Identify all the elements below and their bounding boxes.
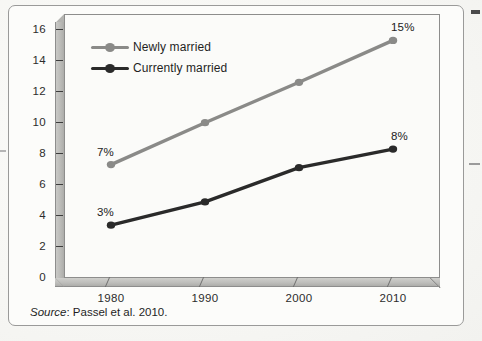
y-tick-mark bbox=[56, 122, 63, 124]
data-label: 7% bbox=[97, 146, 114, 158]
legend-item-newly-married: Newly married bbox=[91, 38, 227, 56]
y-tick-mark bbox=[56, 246, 63, 248]
legend-label: Currently married bbox=[133, 61, 227, 75]
y-tick-mark bbox=[56, 29, 63, 31]
crop-mark-middle-right bbox=[469, 163, 480, 165]
data-point-marker bbox=[107, 161, 115, 168]
data-point-marker bbox=[201, 198, 209, 205]
data-point-marker bbox=[107, 222, 115, 229]
data-label: 8% bbox=[391, 130, 408, 142]
crop-mark-top-right bbox=[471, 10, 480, 14]
y-tick-label: 10 bbox=[33, 117, 46, 129]
source-label: Source bbox=[30, 306, 66, 318]
plot-floor-right-bevel bbox=[430, 278, 441, 288]
data-label: 3% bbox=[97, 206, 114, 218]
y-tick-label: 4 bbox=[39, 210, 46, 222]
y-tick-label: 16 bbox=[33, 24, 46, 36]
crop-mark-middle-left bbox=[0, 150, 6, 152]
y-tick-label: 2 bbox=[39, 241, 46, 253]
y-tick-label: 0 bbox=[39, 272, 46, 284]
y-tick-label: 12 bbox=[33, 86, 46, 98]
y-tick-mark bbox=[56, 184, 63, 186]
series-line-currently-married bbox=[111, 149, 393, 225]
plot-floor-left-bevel bbox=[55, 278, 65, 287]
legend-label: Newly married bbox=[133, 40, 211, 54]
legend-dot-icon bbox=[105, 64, 115, 73]
data-point-marker bbox=[389, 146, 397, 153]
x-tick-label: 1980 bbox=[98, 292, 125, 304]
legend-marker-icon bbox=[91, 40, 129, 54]
source-note: Source: Passel et al. 2010. bbox=[30, 306, 167, 318]
legend-marker-icon bbox=[91, 61, 129, 75]
data-point-marker bbox=[295, 79, 303, 86]
x-tick-label: 2000 bbox=[286, 292, 313, 304]
y-tick-mark bbox=[56, 60, 63, 62]
y-tick-label: 8 bbox=[39, 148, 46, 160]
source-citation: : Passel et al. 2010. bbox=[66, 306, 167, 318]
legend-item-currently-married: Currently married bbox=[91, 59, 227, 77]
y-tick-mark bbox=[56, 215, 63, 217]
y-tick-mark bbox=[56, 91, 63, 93]
x-tick-label: 2010 bbox=[380, 292, 407, 304]
y-tick-mark bbox=[56, 153, 63, 155]
data-point-marker bbox=[201, 119, 209, 126]
legend-dot-icon bbox=[105, 43, 115, 52]
data-label: 15% bbox=[391, 21, 415, 33]
y-tick-label: 6 bbox=[39, 179, 46, 191]
data-point-marker bbox=[295, 164, 303, 171]
x-tick-label: 1990 bbox=[192, 292, 219, 304]
y-tick-label: 14 bbox=[33, 55, 46, 67]
data-point-marker bbox=[389, 37, 397, 44]
chart-legend: Newly marriedCurrently married bbox=[91, 38, 227, 80]
plot-floor bbox=[55, 278, 440, 287]
line-chart: 0246810121416 1980199020002010 7%15%3%8%… bbox=[8, 5, 464, 326]
